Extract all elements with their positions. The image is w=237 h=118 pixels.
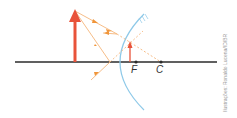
ray-arrow-icons	[92, 19, 112, 76]
focus-label: F	[131, 64, 137, 75]
virtual-rays	[110, 31, 161, 62]
ray-diagram	[0, 0, 237, 118]
illustration-credit: Ilustrações: Ronaldo Lucena/ID/BR	[222, 34, 228, 112]
center-label: C	[156, 64, 163, 75]
object-arrowhead-icon	[69, 9, 81, 22]
